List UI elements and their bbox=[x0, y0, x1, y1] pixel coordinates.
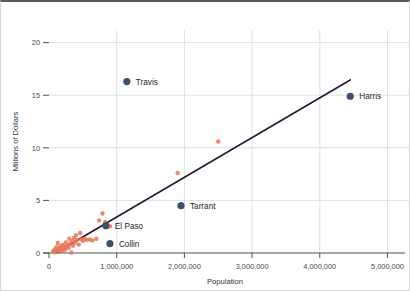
x-tick-label: 2,000,000 bbox=[168, 262, 201, 271]
y-tick-label: 5 bbox=[36, 196, 40, 205]
chart-canvas: 01,000,0002,000,0003,000,0004,000,0005,0… bbox=[1, 2, 410, 291]
point-label-tarrant: Tarrant bbox=[190, 202, 216, 211]
x-tick-label: 4,000,000 bbox=[303, 262, 336, 271]
scatter-point bbox=[100, 211, 104, 215]
x-tick-label: 3,000,000 bbox=[236, 262, 269, 271]
scatter-point bbox=[75, 238, 79, 242]
scatter-point bbox=[90, 238, 94, 242]
y-tick-label: 0 bbox=[36, 249, 40, 258]
x-tick-label: 5,000,000 bbox=[371, 262, 404, 271]
x-axis-title: Population bbox=[207, 277, 243, 286]
y-tick-label: 20 bbox=[32, 38, 40, 47]
y-tick-label: 10 bbox=[32, 144, 40, 153]
highlighted-point-tarrant bbox=[177, 202, 184, 209]
highlighted-point-collin bbox=[106, 240, 113, 247]
scatter-point bbox=[77, 242, 81, 246]
scatter-point bbox=[78, 231, 82, 235]
x-tick-label: 1,000,000 bbox=[100, 262, 133, 271]
scatter-chart-figure: 01,000,0002,000,0003,000,0004,000,0005,0… bbox=[0, 0, 410, 291]
y-axis-title: Millions of Dollars bbox=[11, 112, 20, 172]
scatter-point bbox=[216, 139, 220, 143]
point-label-harris: Harris bbox=[359, 92, 381, 101]
scatter-point bbox=[94, 237, 98, 241]
scatter-point bbox=[66, 246, 70, 250]
scatter-point bbox=[74, 233, 78, 237]
scatter-point bbox=[175, 171, 179, 175]
highlighted-point-el-paso bbox=[102, 222, 109, 229]
scatter-point bbox=[56, 241, 60, 245]
point-label-collin: Collin bbox=[119, 240, 140, 249]
point-label-el-paso: El Paso bbox=[115, 222, 144, 231]
scatter-point bbox=[69, 250, 73, 254]
point-label-travis: Travis bbox=[136, 78, 158, 87]
x-tick-label: 0 bbox=[47, 262, 51, 271]
y-tick-label: 15 bbox=[32, 91, 40, 100]
scatter-point bbox=[97, 218, 101, 222]
highlighted-point-travis bbox=[123, 78, 130, 85]
highlighted-point-harris bbox=[347, 93, 354, 100]
